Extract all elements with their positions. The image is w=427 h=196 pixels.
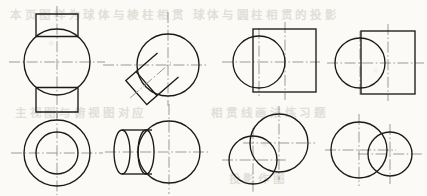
inclined-prism-group	[120, 50, 182, 110]
figure-sphere-with-boss-front-view	[9, 6, 105, 118]
figure-sphere-boss-top-view	[11, 110, 103, 195]
inclined-prism-axis-centerline	[130, 62, 171, 97]
figure-two-circles-diagonal-intersection	[222, 106, 315, 192]
figure-sphere-with-inclined-prism	[103, 12, 207, 110]
inclined-prism-outline	[126, 53, 179, 105]
drawing-sheet: 本页图样为球体与棱柱相贯 球体与圆柱相贯的投影 主视图与俯视图对应 相贯线画法练…	[0, 0, 427, 196]
figure-sphere-and-square-prism-front-view	[222, 22, 320, 100]
figure-two-circles-horizontal-intersection	[325, 114, 424, 186]
technical-drawing-canvas: .obj { fill:none; stroke:#1a1a1a; stroke…	[0, 0, 427, 196]
figure-sphere-and-rect-prism-front-view	[327, 24, 424, 101]
figure-sphere-with-horizontal-cylinder	[105, 104, 209, 194]
